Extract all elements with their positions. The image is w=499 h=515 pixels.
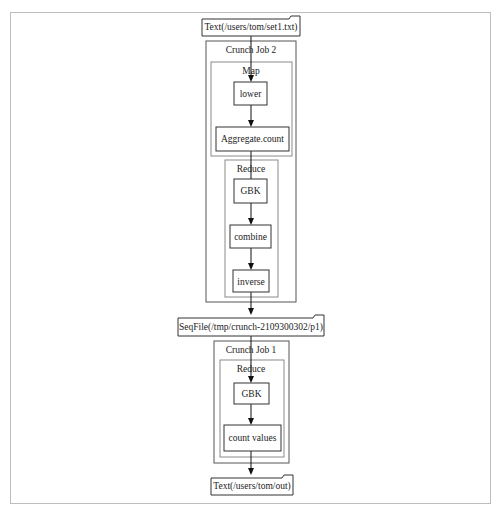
gbk-job1-label: GBK — [241, 389, 261, 399]
lower-label: lower — [240, 89, 262, 99]
gbk-job2-label: GBK — [240, 186, 260, 196]
combine-label: combine — [234, 232, 267, 242]
aggregate-count-label: Aggregate.count — [221, 134, 284, 144]
node-output-file[interactable]: Text(/users/tom/out) — [211, 475, 293, 495]
node-intermediate-file[interactable]: SeqFile(/tmp/crunch-2109300302/p1) — [178, 315, 324, 336]
node-aggregate-count[interactable]: Aggregate.count — [216, 127, 289, 151]
pipeline-diagram: Crunch Job 2 Map Reduce Crunch Job 1 Red… — [0, 0, 499, 515]
node-gbk-job1[interactable]: GBK — [234, 383, 269, 404]
node-count-values[interactable]: count values — [224, 425, 281, 451]
count-values-label: count values — [229, 433, 277, 443]
inverse-label: inverse — [237, 277, 264, 287]
node-input-file[interactable]: Text(/users/tom/set1.txt) — [202, 16, 300, 36]
node-combine[interactable]: combine — [230, 225, 271, 248]
intermediate-file-label: SeqFile(/tmp/crunch-2109300302/p1) — [179, 322, 323, 333]
node-inverse[interactable]: inverse — [233, 270, 269, 292]
node-lower[interactable]: lower — [234, 82, 267, 105]
node-gbk-job2[interactable]: GBK — [234, 179, 267, 203]
output-file-label: Text(/users/tom/out) — [213, 481, 290, 492]
input-file-label: Text(/users/tom/set1.txt) — [204, 22, 297, 33]
